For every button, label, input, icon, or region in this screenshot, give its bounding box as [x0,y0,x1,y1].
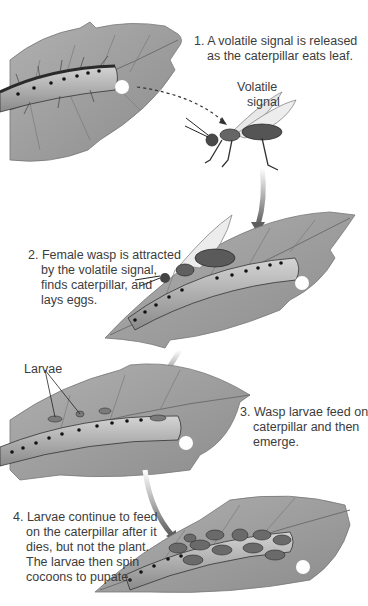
leaf-hole-4 [296,560,310,574]
arrowhead-icon [219,117,227,125]
step-2-caption: 2. Female wasp is attracted by the volat… [28,248,181,308]
larvae-label: Larvae [24,362,62,377]
step-2-line: lays eggs. [28,293,181,308]
step-4-line: cocoons to pupate. [13,570,158,585]
step-4-line: on the caterpillar after it [13,525,158,540]
volatile-signal-label-line1: Volatile [237,80,280,95]
step-1-number: 1. [194,34,204,48]
step-2-line: by the volatile signal, [28,263,181,278]
leaf-hole-1 [115,80,129,94]
volatile-signal-label: Volatile signal [237,80,280,110]
step-1-line: A volatile signal is released [207,34,357,48]
step-3-caption: 3. Wasp larvae feed on caterpillar and t… [240,405,368,450]
leaf-hole-3 [179,436,193,450]
volatile-signal-label-line2: signal [237,95,280,110]
step-1-caption: 1. A volatile signal is released as the … [194,34,357,64]
step-arrow-1-2 [258,168,263,225]
step-2-line: Female wasp is attracted [42,248,181,262]
leaf-hole-2 [295,276,309,290]
step-4-number: 4. [13,510,23,524]
step-1-line: as the caterpillar eats leaf. [194,49,357,64]
step-3-line: Wasp larvae feed on [254,405,368,419]
step-3-number: 3. [240,405,250,419]
step-4-line: Larvae continue to feed [27,510,158,524]
step-3-line: caterpillar and then [240,420,368,435]
step-4-line: The larvae then spin [13,555,158,570]
step-4-line: dies, but not the plant. [13,540,158,555]
step-4-caption: 4. Larvae continue to feed on the caterp… [13,510,158,585]
step-2-number: 2. [28,248,38,262]
step-3-line: emerge. [240,435,368,450]
step-2-line: finds caterpillar, and [28,278,181,293]
